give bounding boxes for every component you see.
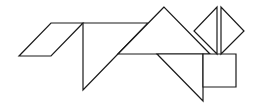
tangram-canvas [0,0,256,110]
tangram-figure [0,0,256,110]
small-triangle-ear-right [221,7,244,54]
square-head [203,54,236,87]
medium-triangle-leg [157,54,203,101]
parallelogram-tail [19,23,83,56]
